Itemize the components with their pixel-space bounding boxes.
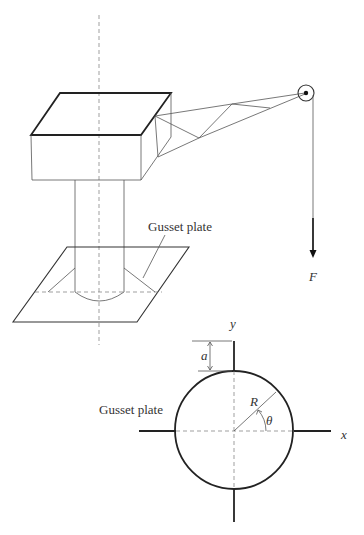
offset-label: a xyxy=(201,348,208,363)
angle-arc xyxy=(258,410,266,431)
gusset-label-top: Gusset plate xyxy=(148,219,212,234)
section-view: a R θ y x Gusset plate xyxy=(99,316,347,522)
box-right-face xyxy=(141,93,171,180)
gusset-leader-line xyxy=(143,235,165,278)
column-base-arc xyxy=(75,292,124,301)
gusset-label-section: Gusset plate xyxy=(99,402,163,417)
y-axis-label: y xyxy=(228,316,236,331)
box-top-face xyxy=(31,93,171,135)
pulley-axle xyxy=(304,91,308,95)
crane-diagram: F Gusset plate a R θ y x xyxy=(0,0,364,535)
base-plate xyxy=(13,247,189,322)
angle-label: θ xyxy=(266,413,273,428)
x-axis-label: x xyxy=(340,427,347,442)
left-gusset xyxy=(48,268,75,292)
right-gusset xyxy=(124,268,155,292)
force-label: F xyxy=(308,269,318,284)
box-front-face xyxy=(31,135,141,180)
force-arrowhead-icon xyxy=(310,250,317,258)
radius-label: R xyxy=(249,394,258,409)
truss-boom xyxy=(155,93,305,157)
